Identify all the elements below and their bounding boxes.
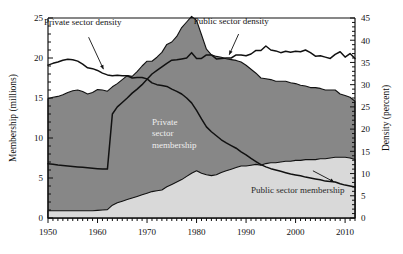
y-axis-left-tick-label: 15 (34, 93, 44, 103)
y-axis-right-title: Density (percent) (381, 85, 392, 151)
y-axis-right-tick-label: 5 (361, 191, 366, 201)
x-axis-tick-label: 2010 (336, 227, 355, 237)
y-axis-right-tick-label: 15 (361, 147, 371, 157)
public-sector-density-label: Public sector density (194, 16, 269, 26)
y-axis-right-tick-label: 30 (361, 80, 371, 90)
y-axis-left-tick-label: 10 (34, 133, 44, 143)
y-axis-right-tick-label: 20 (361, 124, 371, 134)
private-sector-membership-label: Private (152, 117, 178, 127)
y-axis-left-tick-label: 20 (34, 53, 44, 63)
y-axis-left-title: Membership (millions) (8, 74, 19, 162)
y-axis-left-tick-label: 25 (34, 13, 44, 23)
chart-container: 0510152025051015202530354045195019601970… (0, 0, 403, 254)
x-axis-tick-label: 2000 (287, 227, 306, 237)
y-axis-right-tick-label: 0 (361, 213, 366, 223)
y-axis-left-tick-label: 5 (39, 173, 44, 183)
private-sector-membership-label-2: sector (152, 128, 174, 138)
x-axis-tick-label: 1950 (39, 227, 58, 237)
y-axis-left-tick-label: 0 (39, 213, 44, 223)
private-sector-density-label: Private sector density (44, 17, 122, 27)
y-axis-right-tick-label: 10 (361, 169, 371, 179)
y-axis-right-tick-label: 40 (361, 36, 371, 46)
public-sector-membership-label: Public sector membership (251, 185, 345, 195)
y-axis-right-tick-label: 25 (361, 102, 371, 112)
y-axis-right-tick-label: 45 (361, 13, 371, 23)
x-axis-tick-label: 1990 (237, 227, 256, 237)
x-axis-tick-label: 1970 (138, 227, 157, 237)
union-membership-density-chart: 0510152025051015202530354045195019601970… (0, 0, 403, 254)
y-axis-right-tick-label: 35 (361, 58, 371, 68)
x-axis-tick-label: 1960 (89, 227, 108, 237)
private-sector-membership-label-3: membership (152, 140, 197, 150)
x-axis-tick-label: 1980 (188, 227, 207, 237)
